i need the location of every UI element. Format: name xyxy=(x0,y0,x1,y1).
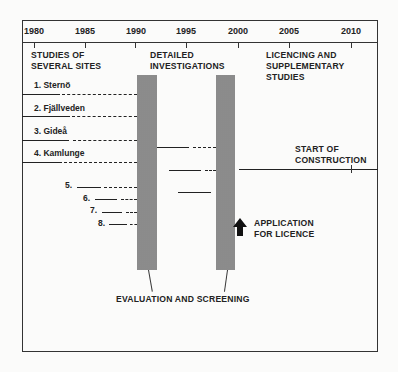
application-label: APPLICATIONFOR LICENCE xyxy=(254,218,314,240)
evaluation-label: EVALUATION AND SCREENING xyxy=(116,294,250,305)
application-arrow-icon xyxy=(0,0,398,372)
